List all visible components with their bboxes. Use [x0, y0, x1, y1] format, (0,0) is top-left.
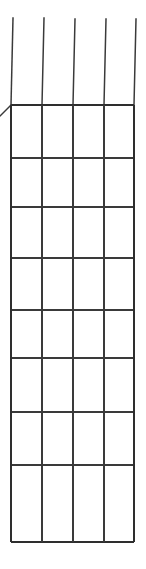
diagram-canvas	[0, 0, 146, 569]
perspective-table-grid	[0, 0, 146, 569]
